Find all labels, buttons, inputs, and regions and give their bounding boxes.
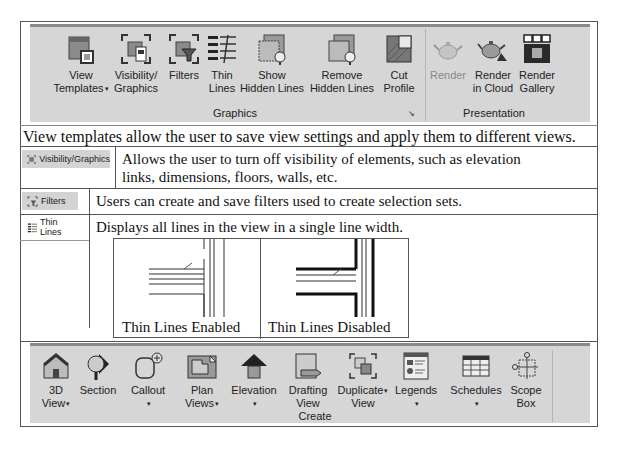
duplicate-view-button[interactable]: Duplicate▾View (334, 352, 392, 410)
render-in-cloud-button[interactable]: Renderin Cloud (470, 33, 516, 95)
show-hidden-lines-icon (256, 33, 288, 65)
render-label: Render (428, 69, 468, 82)
visibility-description-line1: Allows the user to turn off visibility o… (122, 150, 521, 168)
filters-button[interactable]: Filters (164, 33, 204, 82)
callout-button[interactable]: Callout▾ (126, 352, 170, 410)
duplicate-view-icon (348, 352, 378, 380)
schedules-icon (461, 352, 491, 380)
view-templates-icon (66, 33, 96, 65)
visibility-graphics-label: Visibility/Graphics (108, 69, 164, 95)
plan-views-icon (186, 352, 218, 380)
thin-lines-enabled-caption: Thin Lines Enabled (122, 319, 240, 336)
visibility-graphics-chip: Visibility/Graphics (22, 150, 110, 168)
render-gallery-icon (522, 33, 552, 65)
duplicate-view-label: Duplicate▾View (334, 384, 392, 410)
filters-chip: Filters (22, 192, 78, 210)
divider (20, 188, 598, 189)
section-icon (83, 352, 113, 380)
section-label: Section (76, 384, 120, 397)
create-ribbon: 3DView▾ Section Callout▾ PlanViews▾ Elev… (30, 343, 590, 423)
scope-box-label: ScopeBox (506, 384, 546, 410)
view-templates-description: View templates allow the user to save vi… (23, 128, 576, 146)
thin-lines-disabled-caption: Thin Lines Disabled (268, 319, 390, 336)
drafting-view-button[interactable]: DraftingView (284, 352, 332, 410)
render-icon (432, 33, 464, 65)
thin-lines-label: ThinLines (204, 69, 240, 95)
thin-lines-disabled-drawing (261, 239, 409, 319)
visibility-description-line2: links, dimensions, floors, walls, etc. (122, 168, 337, 186)
schedules-label: Schedules▾ (446, 384, 506, 410)
section-button[interactable]: Section (76, 352, 120, 397)
drafting-view-icon (293, 352, 323, 380)
3d-view-button[interactable]: 3DView▾ (38, 352, 74, 410)
view-templates-label: ViewTemplates▾ (50, 69, 112, 95)
render-in-cloud-label: Renderin Cloud (470, 69, 516, 95)
graphics-dialog-launcher[interactable]: ↘ (406, 109, 416, 118)
schedules-button[interactable]: Schedules▾ (446, 352, 506, 410)
legends-icon (401, 352, 431, 380)
filters-icon (168, 33, 200, 65)
thin-lines-chip: Thin Lines (22, 218, 78, 236)
elevation-button[interactable]: Elevation▾ (228, 352, 280, 410)
scope-box-icon (511, 352, 541, 380)
filters-label: Filters (164, 69, 204, 82)
divider (20, 214, 598, 215)
filters-description: Users can create and save filters used t… (96, 192, 462, 210)
legends-label: Legends▾ (392, 384, 440, 410)
visibility-graphics-button[interactable]: Visibility/Graphics (108, 33, 164, 95)
drafting-view-label: DraftingView (284, 384, 332, 410)
thin-lines-button[interactable]: ThinLines (204, 33, 240, 95)
divider (20, 146, 598, 147)
render-cloud-icon (477, 33, 509, 65)
graphics-ribbon: ViewTemplates▾ Visibility/Graphics Filte… (30, 24, 590, 122)
group-separator (425, 29, 426, 121)
scope-box-button[interactable]: ScopeBox (506, 352, 546, 410)
divider (115, 146, 116, 188)
show-hidden-lines-button[interactable]: ShowHidden Lines (238, 33, 306, 95)
show-hidden-lines-label: ShowHidden Lines (238, 69, 306, 95)
create-group-label: Create (290, 410, 340, 422)
callout-icon (133, 352, 163, 380)
divider (89, 188, 90, 328)
visibility-graphics-icon (120, 33, 152, 65)
elevation-label: Elevation▾ (228, 384, 280, 410)
cut-profile-label: CutProfile (378, 69, 420, 95)
divider (20, 240, 89, 241)
graphics-group-label: Graphics (205, 107, 265, 119)
3d-view-label: 3DView▾ (38, 384, 74, 410)
render-gallery-button[interactable]: RenderGallery (516, 33, 558, 95)
cut-profile-button[interactable]: CutProfile (378, 33, 420, 95)
thin-lines-icon (206, 33, 238, 65)
presentation-group-label: Presentation (430, 107, 558, 119)
visibility-graphics-icon (27, 154, 36, 165)
remove-hidden-lines-icon (326, 33, 358, 65)
ribbon-end-separator (552, 350, 553, 422)
render-gallery-label: RenderGallery (516, 69, 558, 95)
thin-lines-icon (27, 222, 37, 233)
cut-profile-icon (384, 33, 414, 65)
elevation-icon (239, 352, 269, 380)
divider (20, 341, 598, 342)
thin-lines-enabled-drawing (114, 239, 260, 319)
divider (20, 125, 598, 126)
3d-view-icon (41, 352, 71, 380)
thin-lines-figure: Thin Lines Enabled Thin Lines Disabled (113, 238, 409, 338)
legends-button[interactable]: Legends▾ (392, 352, 440, 410)
plan-views-button[interactable]: PlanViews▾ (180, 352, 224, 410)
render-button[interactable]: Render (428, 33, 468, 82)
filters-icon (27, 196, 38, 207)
plan-views-label: PlanViews▾ (180, 384, 224, 410)
remove-hidden-lines-button[interactable]: RemoveHidden Lines (306, 33, 378, 95)
view-templates-button[interactable]: ViewTemplates▾ (50, 33, 112, 95)
callout-label: Callout▾ (126, 384, 170, 410)
thin-lines-description: Displays all lines in the view in a sing… (96, 218, 403, 236)
remove-hidden-lines-label: RemoveHidden Lines (306, 69, 378, 95)
